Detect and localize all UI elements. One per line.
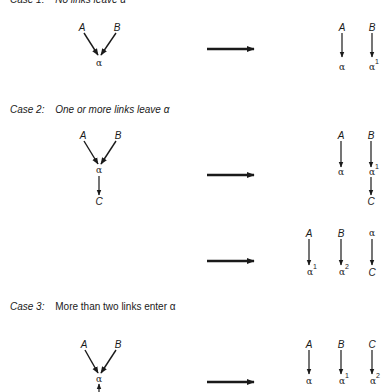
- case1-right-node-a: A: [339, 22, 346, 33]
- case2-right2-node-a: A: [306, 228, 313, 239]
- case2-right2-node-alpha1: α1: [307, 265, 317, 277]
- case2-right2-node-alpha2: α2: [339, 265, 349, 277]
- case2-left-node-a: A: [80, 130, 87, 141]
- case3-right-node-alpha2: α2: [370, 374, 380, 386]
- case2-left-node-c: C: [95, 196, 102, 207]
- superscript: 1: [375, 58, 379, 65]
- case3-right-node-a: A: [306, 339, 313, 350]
- case2-right1-node-alpha: α: [338, 167, 344, 177]
- case3-right-node-alpha1: α1: [339, 374, 349, 386]
- case1-left-node-alpha: α: [96, 58, 102, 68]
- superscript: 1: [313, 263, 317, 270]
- case1-right-node-b: B: [369, 22, 376, 33]
- case2-right2-node-b: B: [338, 228, 345, 239]
- diagram-edges: [0, 0, 390, 392]
- case2-right1-node-alpha1: α1: [369, 165, 379, 177]
- superscript: 1: [375, 163, 379, 170]
- case3-left-node-a: A: [81, 339, 88, 350]
- superscript: 2: [376, 372, 380, 379]
- case2-right1-node-b: B: [368, 130, 375, 141]
- superscript: 1: [345, 372, 349, 379]
- case3-left-node-b: B: [115, 339, 122, 350]
- case3-left-node-alpha: α: [96, 374, 102, 384]
- case2-right2-node-c: C: [368, 267, 375, 278]
- case2-left-node-b: B: [115, 130, 122, 141]
- case3-right-node-alpha: α: [306, 376, 312, 386]
- case3-right-node-b: B: [338, 339, 345, 350]
- case2-right2-node-alpha: α: [369, 228, 375, 238]
- case1-left-node-a: A: [79, 22, 86, 33]
- superscript: 2: [345, 263, 349, 270]
- case3-right-node-c: C: [368, 339, 375, 350]
- case2-right1-node-c: C: [367, 196, 374, 207]
- case1-right-node-alpha1: α1: [369, 60, 379, 72]
- case1-right-node-alpha: α: [339, 62, 345, 72]
- case1-left-node-b: B: [114, 22, 121, 33]
- case2-left-node-alpha: α: [96, 165, 102, 175]
- case2-right1-node-a: A: [338, 130, 345, 141]
